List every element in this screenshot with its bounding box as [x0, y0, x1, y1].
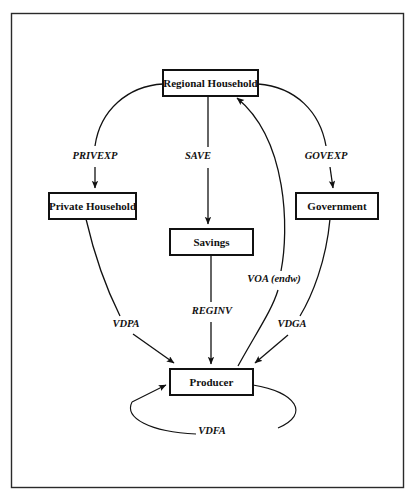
- node-regional-household[interactable]: Regional Household: [163, 70, 258, 96]
- vdfa-left-curve: [131, 402, 196, 434]
- vdga-arrow: [255, 335, 288, 363]
- edge-govexp: [258, 84, 333, 188]
- govexp-label: GOVEXP: [305, 150, 348, 161]
- save-label: SAVE: [185, 150, 211, 161]
- node-private-household[interactable]: Private Household: [49, 193, 136, 219]
- regional-household-label: Regional Household: [163, 77, 257, 89]
- node-producer[interactable]: Producer: [170, 369, 253, 395]
- edge-privexp: [95, 84, 163, 188]
- government-label: Government: [307, 200, 367, 212]
- edge-label-voa: VOA (endw) VOA (endw): [247, 273, 300, 285]
- voa-lower-curve: [238, 290, 278, 366]
- edge-label-govexp: GOVEXP GOVEXP: [305, 150, 348, 161]
- vdfa-label: VDFA: [198, 425, 226, 436]
- privexp-label: PRIVEXP: [73, 150, 119, 161]
- edge-label-reginv: REGINV REGINV: [191, 305, 233, 316]
- flow-diagram: Regional Household Private Household Gov…: [0, 0, 419, 502]
- govexp-arrow: [330, 167, 333, 188]
- node-government[interactable]: Government: [296, 193, 378, 219]
- vdpa-arrow: [133, 334, 174, 363]
- vdpa-curve: [86, 219, 120, 316]
- edge-label-vdpa: VDPA VDPA: [112, 318, 139, 329]
- edge-label-vdfa: VDFA VDFA: [198, 425, 226, 436]
- producer-label: Producer: [190, 376, 234, 388]
- savings-label: Savings: [193, 236, 230, 248]
- private-household-label: Private Household: [49, 200, 136, 212]
- vdfa-arrow: [132, 385, 166, 402]
- vdpa-label: VDPA: [112, 318, 139, 329]
- voa-label: VOA (endw): [247, 273, 300, 285]
- node-savings[interactable]: Savings: [170, 229, 253, 255]
- edge-vdpa: [86, 219, 174, 363]
- vdfa-right-curve: [253, 385, 296, 428]
- edge-label-save: SAVE SAVE: [185, 150, 211, 161]
- vdga-label: VDGA: [277, 318, 306, 329]
- diagram-canvas: Regional Household Private Household Gov…: [0, 0, 419, 502]
- edge-label-privexp: PRIVEXP PRIVEXP: [73, 150, 119, 161]
- privexp-curve: [95, 84, 163, 146]
- edge-label-vdga: VDGA VDGA: [277, 318, 306, 329]
- vdga-curve: [300, 219, 330, 316]
- govexp-curve: [258, 84, 326, 146]
- edge-vdga: [255, 219, 330, 363]
- reginv-label: REGINV: [191, 305, 233, 316]
